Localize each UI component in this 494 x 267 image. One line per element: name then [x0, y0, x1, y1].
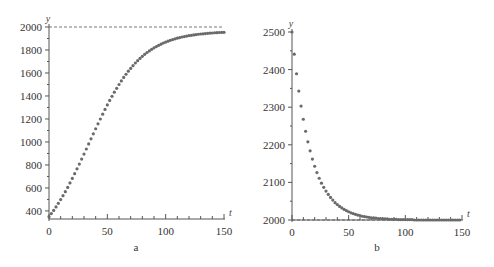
data-point [122, 76, 125, 79]
y-tick-label: 2000 [20, 21, 43, 33]
data-point [71, 177, 74, 180]
panel-a: 4006008001000120014001600180020000501001… [20, 13, 233, 253]
data-point [106, 103, 109, 106]
x-tick-label: 0 [289, 226, 295, 238]
y-axis-label: y [45, 13, 51, 24]
x-tick-label: 50 [343, 226, 355, 238]
data-point [68, 181, 71, 184]
data-point [99, 117, 102, 120]
data-point [115, 87, 118, 90]
data-point [324, 189, 327, 192]
data-point [304, 130, 307, 133]
data-point [134, 61, 137, 64]
x-tick-label: 100 [397, 226, 414, 238]
y-tick-label: 2400 [263, 64, 286, 76]
panel-caption: a [134, 241, 139, 253]
data-point [103, 108, 106, 111]
data-point [127, 70, 130, 73]
data-point [318, 177, 321, 180]
data-point [315, 171, 318, 174]
data-point [131, 64, 134, 67]
data-point [101, 113, 104, 116]
data-point [322, 186, 325, 189]
data-point [311, 157, 314, 160]
y-tick-label: 600 [26, 182, 43, 194]
data-point [293, 53, 296, 56]
data-point [54, 205, 57, 208]
y-tick-label: 400 [26, 205, 43, 217]
x-tick-label: 100 [157, 225, 174, 237]
data-point [299, 104, 302, 107]
y-tick-label: 2000 [263, 214, 286, 226]
data-point [85, 147, 88, 150]
data-point [458, 218, 461, 221]
panel-caption: b [374, 241, 380, 253]
data-point [329, 196, 332, 199]
data-point [87, 142, 90, 145]
y-tick-label: 1000 [20, 136, 43, 148]
data-point [124, 73, 127, 76]
data-point [61, 194, 64, 197]
data-point [108, 99, 111, 102]
data-point [80, 158, 83, 161]
y-tick-label: 1800 [20, 44, 43, 56]
y-tick-label: 1600 [20, 67, 43, 79]
data-point [222, 31, 225, 34]
data-point [136, 59, 139, 62]
y-tick-label: 1400 [20, 90, 43, 102]
y-tick-label: 2100 [263, 176, 286, 188]
y-tick-label: 2500 [263, 26, 286, 38]
data-point [73, 172, 76, 175]
data-point [290, 30, 293, 33]
data-point [82, 152, 85, 155]
data-point [313, 165, 316, 168]
data-point [302, 118, 305, 121]
x-axis-label: t [467, 208, 470, 219]
data-point [92, 132, 95, 135]
data-point [297, 89, 300, 92]
data-point [50, 212, 53, 215]
data-point [120, 79, 123, 82]
y-axis-label: y [288, 18, 294, 29]
x-axis-label: t [229, 207, 232, 218]
x-tick-label: 150 [216, 225, 233, 237]
data-point [295, 72, 298, 75]
data-point [52, 209, 55, 212]
panel-b: 200021002200230024002500050100150ytb [263, 18, 471, 253]
data-point [75, 167, 78, 170]
data-point [64, 190, 67, 193]
x-tick-label: 0 [46, 225, 52, 237]
data-point [47, 215, 50, 218]
data-point [320, 182, 323, 185]
y-tick-label: 2300 [263, 101, 286, 113]
data-point [94, 127, 97, 130]
data-point [96, 122, 99, 125]
data-point [89, 137, 92, 140]
data-point [327, 193, 330, 196]
data-point [331, 198, 334, 201]
data-point [117, 83, 120, 86]
data-point [309, 149, 312, 152]
data-point [78, 162, 81, 165]
data-point [306, 140, 309, 143]
data-point [57, 202, 60, 205]
data-point [59, 198, 62, 201]
data-point [113, 91, 116, 94]
y-tick-label: 800 [26, 159, 43, 171]
data-point [110, 95, 113, 98]
y-tick-label: 2200 [263, 139, 286, 151]
x-tick-label: 150 [454, 226, 471, 238]
data-point [129, 67, 132, 70]
figure: 4006008001000120014001600180020000501001… [0, 0, 494, 267]
data-point [66, 186, 69, 189]
x-tick-label: 50 [102, 225, 114, 237]
y-tick-label: 1200 [20, 113, 43, 125]
